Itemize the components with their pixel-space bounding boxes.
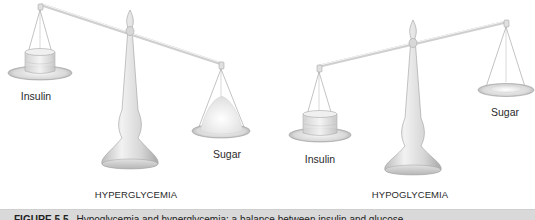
figure-number: FIGURE 5.5 <box>14 214 68 220</box>
insulin-pan <box>8 4 72 80</box>
insulin-label-hyperglycemia: Insulin <box>21 90 51 102</box>
sugar-label-hyperglycemia: Sugar <box>213 148 241 160</box>
insulin-pan <box>289 65 351 142</box>
scales-illustration <box>0 0 535 208</box>
caption-text: Hypoglycemia and hyperglycemia: a balanc… <box>76 214 406 220</box>
figure-caption: FIGURE 5.5Hypoglycemia and hyperglycemia… <box>14 214 406 220</box>
balance-scales-figure: Insulin Sugar HYPERGLYCEMIA Insulin Suga… <box>0 0 535 208</box>
hypoglycemia-scale <box>289 20 534 175</box>
condition-label-hypoglycemia: HYPOGLYCEMIA <box>372 189 449 200</box>
sugar-label-hypoglycemia: Sugar <box>491 106 519 118</box>
figure-caption-bar: FIGURE 5.5Hypoglycemia and hyperglycemia… <box>0 209 535 220</box>
condition-label-hyperglycemia: HYPERGLYCEMIA <box>95 189 177 200</box>
insulin-label-hypoglycemia: Insulin <box>305 153 335 165</box>
sugar-pan <box>478 20 534 97</box>
hyperglycemia-scale <box>8 4 250 169</box>
sugar-pan <box>192 62 250 138</box>
